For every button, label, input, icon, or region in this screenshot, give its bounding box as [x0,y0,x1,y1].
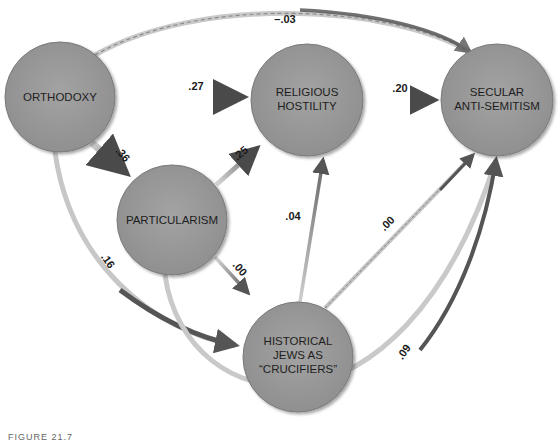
coef-orthodoxy-religious: .27 [188,80,203,92]
node-orthodoxy: ORTHODOXY [5,42,115,152]
node-label: RELIGIOUS [276,86,339,98]
node-secular-antisemitism: SECULAR ANTI-SEMITISM [441,44,553,156]
coef-historical-secular: .00 [378,214,397,233]
node-label: SECULAR [470,86,524,98]
figure-caption: FIGURE 21.7 [8,432,73,442]
node-label: JEWS AS [273,349,323,361]
coef-historical-religious: .04 [285,210,301,222]
node-label: PARTICULARISM [126,214,218,226]
node-label: HISTORICAL [264,335,333,347]
edge-historical-to-religious [300,160,323,302]
edge-historical-to-secular [325,155,473,308]
coef-particularism-secular: .09 [394,342,413,361]
node-label: ORTHODOXY [23,91,97,103]
node-label: “CRUCIFIERS” [259,363,337,375]
node-religious-hostility: RELIGIOUS HOSTILITY [251,44,363,156]
path-diagram: ORTHODOXY RELIGIOUS HOSTILITY SECULAR AN… [0,0,560,442]
node-historical-jews-as-crucifiers: HISTORICAL JEWS AS “CRUCIFIERS” [243,302,353,412]
node-particularism: PARTICULARISM [117,165,227,275]
node-label: ANTI-SEMITISM [454,100,540,112]
coef-orthodoxy-secular: –.03 [274,13,295,25]
coef-religious-secular: .20 [392,82,407,94]
node-label: HOSTILITY [277,100,337,112]
